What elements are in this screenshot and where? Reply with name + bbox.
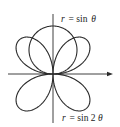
- circle-label: r = sin θ: [61, 14, 96, 24]
- polar-plot: r = sin θ r = sin 2 θ: [0, 0, 120, 127]
- x-axis-arrow-icon: [107, 72, 113, 76]
- rose-label: r = sin 2 θ: [62, 113, 103, 123]
